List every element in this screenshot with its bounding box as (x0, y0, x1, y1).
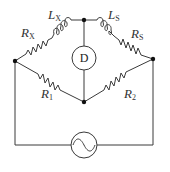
label-lx: LX (47, 7, 61, 23)
label-ls: LS (107, 7, 120, 23)
label-rx: RX (20, 25, 35, 41)
resistor-r2 (84, 59, 153, 102)
node-top (82, 18, 86, 22)
bridge-circuit-diagram: RX LX LS RS R1 R2 D (0, 0, 170, 172)
label-r2: R2 (123, 86, 136, 102)
detector-label: D (80, 51, 89, 65)
label-r1: R1 (40, 86, 53, 102)
source-wire-right (97, 59, 153, 145)
ac-source-icon (71, 132, 97, 158)
label-rs: RS (130, 26, 143, 42)
node-left (13, 59, 17, 63)
resistor-rx (15, 38, 52, 61)
node-bottom (82, 100, 86, 104)
node-right (151, 57, 155, 61)
